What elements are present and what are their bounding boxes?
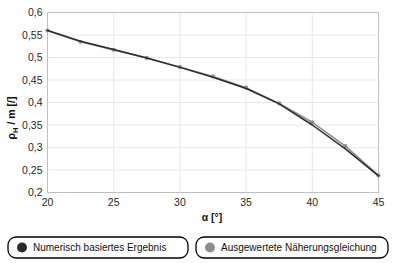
chart-background [0,0,395,263]
legend-item[interactable]: Ausgewertete Näherungsgleichung [196,237,388,258]
line-chart: 0,20,250,30,350,40,450,50,550,6 20253035… [0,0,395,263]
x-tick-label: 35 [240,196,252,208]
chart-legend: Numerisch basiertes ErgebnisAusgewertete… [8,237,388,258]
chart-container: 0,20,250,30,350,40,450,50,550,6 20253035… [0,0,395,263]
y-tick-label: 0,4 [28,96,43,108]
y-tick-label: 0,2 [28,186,43,198]
legend-item-label: Ausgewertete Näherungsgleichung [221,242,377,253]
y-tick-label: 0,6 [28,6,43,18]
legend-item-label: Numerisch basiertes Ergebnis [33,242,166,253]
legend-marker-icon [205,243,215,253]
y-tick-label: 0,3 [28,141,43,153]
y-tick-label: 0,5 [28,51,43,63]
x-tick-label: 40 [306,196,318,208]
legend-marker-icon [17,243,27,253]
y-tick-label: 0,55 [22,29,43,41]
x-tick-label: 25 [108,196,120,208]
x-tick-label: 45 [373,196,385,208]
x-tick-label: 20 [42,196,54,208]
y-tick-label: 0,25 [22,164,43,176]
y-tick-label: 0,35 [22,119,43,131]
x-tick-label: 30 [174,196,186,208]
y-axis-title-units: / m [/] [5,97,17,128]
x-axis-title: α [°] [202,211,223,223]
legend-item[interactable]: Numerisch basiertes Ergebnis [8,237,188,258]
y-tick-label: 0,45 [22,74,43,86]
